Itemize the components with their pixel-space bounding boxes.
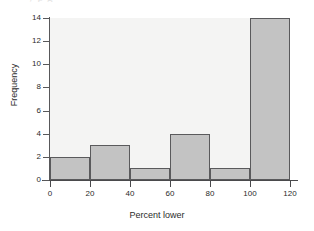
x-axis-title: Percent lower [0,210,314,220]
x-tick-label: 0 [48,189,52,198]
x-tick-label: 20 [86,189,95,198]
histogram-bar [90,145,130,180]
x-tick-mark [250,181,251,187]
y-axis-title: Frequency [9,45,19,125]
x-tick-label: 40 [126,189,135,198]
y-tick-label: 6 [37,106,41,115]
y-tick-mark [43,64,49,65]
histogram-bar [50,157,90,180]
y-tick-mark [43,157,49,158]
y-tick-label: 2 [37,152,41,161]
x-tick-label: 60 [166,189,175,198]
histogram-bar [170,134,210,180]
x-tick-label: 80 [206,189,215,198]
y-tick-label: 4 [37,129,41,138]
y-tick-label: 14 [32,13,41,22]
histogram-bar [210,168,250,180]
y-tick-mark [43,41,49,42]
y-tick-label: 8 [37,82,41,91]
y-tick-label: 0 [37,175,41,184]
y-tick-mark [43,111,49,112]
x-tick-label: 120 [283,189,296,198]
histogram-bar [250,18,290,180]
x-tick-mark [90,181,91,187]
x-tick-mark [170,181,171,187]
x-tick-mark [130,181,131,187]
y-tick-mark [43,134,49,135]
x-tick-mark [210,181,211,187]
y-tick-mark [43,18,49,19]
histogram-bar [130,168,170,180]
y-tick-label: 12 [32,36,41,45]
y-tick-label: 10 [32,59,41,68]
y-tick-mark [43,180,49,181]
y-tick-mark [43,87,49,88]
x-tick-mark [290,181,291,187]
histogram-figure: y p g 02468101214 020406080100120 Freque… [0,0,314,231]
x-tick-label: 100 [243,189,256,198]
clipped-caption-text: y p g [28,0,288,2]
x-tick-mark [50,181,51,187]
